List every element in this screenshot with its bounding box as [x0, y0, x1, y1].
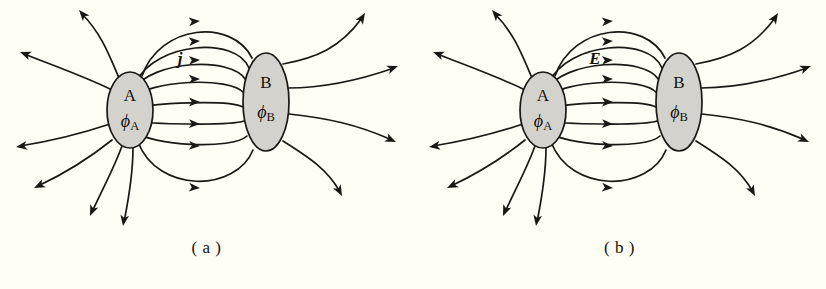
- exterior-field-lines-right: [283, 11, 400, 198]
- node-A-name: A: [537, 86, 550, 105]
- panel-a-caption: ( a ): [0, 238, 413, 258]
- node-B-name: B: [673, 73, 684, 92]
- node-B-name: B: [260, 73, 271, 92]
- node-blob-A: [520, 72, 566, 148]
- figure-container: A ϕA B ϕB j ( a ): [0, 0, 826, 289]
- panel-a: A ϕA B ϕB j ( a ): [0, 0, 413, 289]
- panel-b-caption: ( b ): [413, 238, 826, 258]
- node-A-name: A: [124, 86, 137, 105]
- node-blob-A: [107, 72, 153, 148]
- exterior-field-lines-right: [696, 11, 813, 198]
- field-label-E: E: [588, 49, 600, 68]
- panel-b: A ϕA B ϕB E ( b ): [413, 0, 826, 289]
